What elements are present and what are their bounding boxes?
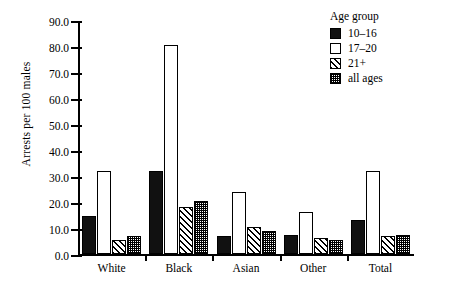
bar-chart: Arrests per 100 males 0.010.020.030.040.…	[0, 0, 452, 297]
bar	[149, 171, 163, 254]
legend: Age group 10–1617–2021+all ages	[330, 10, 383, 87]
y-axis-tick	[71, 21, 82, 23]
legend-entries: 10–1617–2021+all ages	[330, 27, 383, 84]
bar	[217, 236, 231, 254]
legend-entry: 17–20	[330, 42, 383, 54]
legend-swatch-icon	[330, 28, 341, 39]
bar	[396, 235, 410, 255]
bar-group	[82, 22, 141, 254]
legend-entry: 21+	[330, 57, 383, 69]
x-axis-tick	[145, 255, 147, 261]
bar	[351, 220, 365, 254]
y-axis-tick	[71, 255, 82, 257]
y-axis-tick-label: 40.0	[49, 146, 69, 158]
legend-swatch-icon	[330, 58, 341, 69]
x-axis-tick	[212, 255, 214, 261]
legend-entry: all ages	[330, 72, 383, 84]
bar	[127, 236, 141, 254]
bar	[82, 216, 96, 254]
legend-title: Age group	[330, 10, 383, 22]
bar	[366, 171, 380, 254]
y-axis-tick-label: 90.0	[49, 16, 69, 28]
bar	[284, 235, 298, 255]
x-axis-category-label: White	[98, 262, 126, 274]
y-axis-tick-label: 30.0	[49, 172, 69, 184]
y-axis-tick	[71, 125, 82, 127]
x-axis-category-label: Black	[165, 262, 192, 274]
x-axis-category-label: Total	[369, 262, 392, 274]
y-axis-tick	[71, 73, 82, 75]
bar-group	[217, 22, 276, 254]
y-axis-tick	[71, 47, 82, 49]
y-axis-tick	[71, 99, 82, 101]
bar	[232, 192, 246, 254]
legend-entry-label: all ages	[348, 72, 383, 84]
x-axis-line	[78, 254, 414, 256]
y-axis-tick	[71, 203, 82, 205]
y-axis-tick-label: 0.0	[55, 250, 69, 262]
bar	[247, 227, 261, 254]
bar	[381, 236, 395, 254]
bar	[299, 212, 313, 254]
bar	[97, 171, 111, 254]
bar	[314, 238, 328, 254]
bar	[179, 207, 193, 254]
y-axis-tick-label: 70.0	[49, 68, 69, 80]
bar	[112, 240, 126, 254]
legend-swatch-icon	[330, 73, 341, 84]
y-axis-tick-label: 10.0	[49, 224, 69, 236]
bar	[329, 240, 343, 254]
y-axis-tick	[71, 151, 82, 153]
legend-entry-label: 21+	[348, 57, 366, 69]
x-axis-tick	[280, 255, 282, 261]
y-axis-tick-label: 80.0	[49, 42, 69, 54]
legend-entry: 10–16	[330, 27, 383, 39]
x-axis-category-label: Other	[300, 262, 326, 274]
bar	[194, 201, 208, 254]
bar	[164, 45, 178, 254]
legend-entry-label: 17–20	[348, 42, 377, 54]
legend-entry-label: 10–16	[348, 27, 377, 39]
y-axis-tick	[71, 177, 82, 179]
y-axis-tick-label: 50.0	[49, 120, 69, 132]
y-axis-tick-label: 60.0	[49, 94, 69, 106]
bar-group	[149, 22, 208, 254]
legend-swatch-icon	[330, 43, 341, 54]
y-axis-title: Arrests per 100 males	[20, 14, 32, 214]
y-axis-tick-label: 20.0	[49, 198, 69, 210]
y-axis-line	[78, 22, 80, 256]
y-axis-tick	[71, 229, 82, 231]
bar	[262, 231, 276, 254]
x-axis-category-label: Asian	[233, 262, 260, 274]
x-axis-tick	[347, 255, 349, 261]
